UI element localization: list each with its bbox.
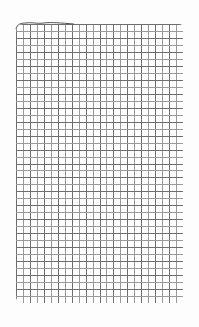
graph-paper-sheet xyxy=(16,24,183,303)
grid-pattern xyxy=(16,24,183,303)
paper-torn-edge xyxy=(14,21,74,29)
scene xyxy=(0,0,199,327)
